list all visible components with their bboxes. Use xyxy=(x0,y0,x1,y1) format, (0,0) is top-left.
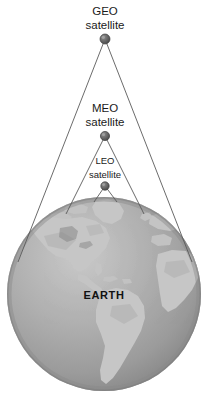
meo-satellite-label: MEO satellite xyxy=(86,102,125,128)
geo-label-line1: GEO xyxy=(92,5,118,17)
earth-label: EARTH xyxy=(84,289,125,301)
satellite-orbit-diagram: GEO satellite MEO satellite LEO satellit… xyxy=(0,0,208,404)
meo-label-line1: MEO xyxy=(92,102,118,114)
leo-satellite-dot-highlight xyxy=(102,183,105,186)
meo-label-line2: satellite xyxy=(86,116,125,128)
leo-satellite-marker xyxy=(101,182,109,190)
geo-satellite-dot-highlight xyxy=(102,36,105,39)
meo-satellite-dot xyxy=(100,131,109,140)
geo-satellite-dot xyxy=(100,34,110,44)
leo-label-line1: LEO xyxy=(95,155,114,166)
geo-label-line2: satellite xyxy=(86,19,125,31)
geo-satellite-label: GEO satellite xyxy=(86,5,125,31)
leo-satellite-dot xyxy=(101,182,109,190)
meo-satellite-marker xyxy=(100,131,109,140)
leo-label-line2: satellite xyxy=(89,169,121,180)
geo-satellite-marker xyxy=(100,34,110,44)
meo-satellite-dot-highlight xyxy=(102,133,105,136)
